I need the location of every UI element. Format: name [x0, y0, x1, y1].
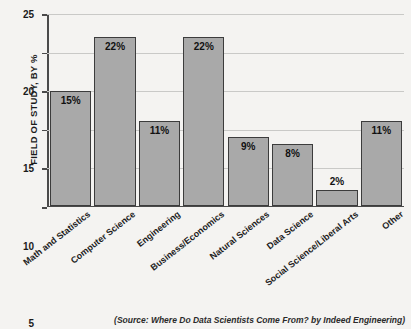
bar-value-label: 22%: [95, 41, 134, 52]
bar-value-label: 11%: [140, 125, 179, 136]
bar-value-label: 2%: [317, 176, 356, 187]
bar[interactable]: 11%: [361, 121, 402, 205]
y-axis-tick-label: 20: [23, 86, 34, 97]
bar-value-label: 22%: [184, 41, 223, 52]
x-axis-category-label: Social Science/Liberal Arts: [263, 209, 360, 288]
plot-area: 0510152025 15%22%11%22%9%8%2%11%: [47, 14, 404, 207]
bar-slot: 9%: [226, 15, 270, 206]
bar[interactable]: 8%: [272, 144, 313, 205]
bar-series: 15%22%11%22%9%8%2%11%: [49, 15, 404, 206]
bar-slot: 8%: [270, 15, 314, 206]
bar-value-label: 11%: [362, 125, 401, 136]
bar[interactable]: 15%: [50, 91, 91, 206]
bar[interactable]: 11%: [139, 121, 180, 205]
x-axis-category-label: Business/Economics: [149, 209, 227, 273]
y-axis-tick: 25: [42, 14, 47, 16]
bar-value-label: 8%: [273, 148, 312, 159]
bar[interactable]: 22%: [94, 37, 135, 206]
y-axis-tick: 5: [42, 168, 47, 170]
bar-value-label: 15%: [51, 95, 90, 106]
bar-slot: 2%: [315, 15, 359, 206]
bar-slot: 11%: [137, 15, 181, 206]
source-caption: (Source: Where Do Data Scientists Come F…: [114, 315, 405, 325]
bar-slot: 22%: [93, 15, 137, 206]
bar-slot: 11%: [359, 15, 403, 206]
bar[interactable]: 22%: [183, 37, 224, 206]
y-axis-tick-label: 5: [28, 317, 34, 328]
x-axis-category-labels: Math and StatisticsComputer ScienceEngin…: [47, 209, 404, 299]
y-axis-tick: 15: [42, 91, 47, 93]
chart-figure: FIELD OF STUDY, BY % 0510152025 15%22%11…: [0, 0, 411, 329]
y-axis-tick-label: 15: [23, 163, 34, 174]
y-axis-title: FIELD OF STUDY, BY %: [28, 15, 39, 205]
bar-slot: 15%: [49, 15, 93, 206]
bar[interactable]: 2%: [316, 190, 357, 205]
bar-value-label: 9%: [229, 141, 268, 152]
x-axis-line: [47, 206, 404, 208]
bar[interactable]: 9%: [228, 137, 269, 206]
bar-slot: 22%: [182, 15, 226, 206]
y-axis-tick-label: 25: [23, 9, 34, 20]
y-axis-tick: 20: [42, 53, 47, 55]
x-axis-category-label: Other: [380, 209, 405, 232]
y-axis-tick: 10: [42, 130, 47, 132]
